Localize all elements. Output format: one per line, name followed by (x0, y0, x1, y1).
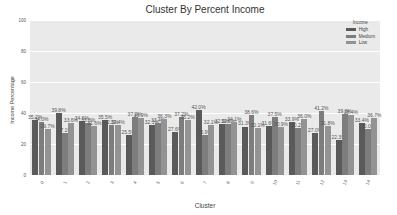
bar-value-label: 31.6% (87, 120, 101, 126)
bar-value-label: 36.0% (297, 113, 311, 119)
bar-low (255, 128, 261, 175)
bar-medium (342, 114, 348, 175)
bar-medium (225, 124, 231, 175)
y-tick-label: 0 (10, 173, 26, 178)
x-tick-label: 11 (294, 177, 302, 188)
bar-low (91, 126, 97, 175)
y-tick-label: 20 (10, 142, 26, 147)
bar-low (161, 119, 167, 175)
x-tick-label: 12 (318, 177, 326, 188)
bar-value-label: 34.0% (34, 116, 48, 122)
x-tick-label: 7 (201, 177, 209, 188)
bar-medium (365, 129, 371, 176)
bar-high (172, 132, 178, 175)
bar-high (32, 120, 38, 175)
y-tick-label: 40 (10, 111, 26, 116)
bar-high (266, 126, 272, 175)
bar-medium (85, 123, 91, 175)
chart-title: Cluster By Percent Income (30, 4, 380, 15)
x-tick-label: 1 (61, 177, 69, 188)
bar-low (115, 125, 121, 175)
plot-area: 35.2%34.0%29.7%39.8%27.1%33.6%34.6%33.8%… (30, 20, 380, 175)
bar-low (371, 118, 377, 175)
bar-medium (109, 125, 115, 175)
legend-swatch (346, 35, 356, 38)
x-tick-label: 4 (131, 177, 139, 188)
bar-value-label: 36.7% (367, 112, 381, 118)
bar-high (149, 125, 155, 175)
bar-low (278, 127, 284, 175)
bar-low (325, 126, 331, 175)
bar-value-label: 36.9% (134, 112, 148, 118)
gridline (30, 82, 380, 83)
legend-label: Low (359, 40, 367, 45)
x-tick-label: 2 (84, 177, 92, 188)
bar-low (301, 119, 307, 175)
gridline (30, 20, 380, 21)
bar-low (185, 120, 191, 175)
bar-high (289, 122, 295, 175)
x-tick-label: 13 (341, 177, 349, 188)
legend-label: Medium (359, 34, 375, 39)
gridline (30, 175, 380, 176)
legend: Income HighMediumLow (346, 20, 375, 47)
bar-value-label: 38.4% (344, 109, 358, 115)
bar-high (102, 120, 108, 175)
bar-high (219, 124, 225, 175)
bar-value-label: 31.8% (321, 120, 335, 126)
y-tick-label: 100 (10, 18, 26, 23)
bar-medium (295, 128, 301, 175)
bar-high (312, 133, 318, 175)
x-tick-label: 0 (38, 177, 46, 188)
legend-title: Income (346, 20, 375, 25)
bar-high (359, 123, 365, 175)
bar-medium (179, 117, 185, 175)
bar-high (79, 121, 85, 175)
bar-medium (202, 135, 208, 175)
y-tick-label: 80 (10, 49, 26, 54)
bar-value-label: 35.2% (181, 114, 195, 120)
bar-high (56, 113, 62, 175)
bar-low (208, 125, 214, 175)
bar-value-label: 39.8% (51, 107, 65, 113)
bar-high (242, 127, 248, 176)
x-tick-label: 8 (224, 177, 232, 188)
gridline (30, 51, 380, 52)
bar-medium (132, 117, 138, 175)
bar-value-label: 37.5% (268, 111, 282, 117)
bar-medium (39, 122, 45, 175)
x-axis-label: Cluster (30, 202, 380, 209)
bar-value-label: 42.0% (191, 104, 205, 110)
bar-value-label: 29.7% (41, 123, 55, 129)
bar-medium (62, 133, 68, 175)
x-tick-label: 10 (271, 177, 279, 188)
x-tick-label: 9 (248, 177, 256, 188)
x-tick-label: 6 (178, 177, 186, 188)
legend-swatch (346, 41, 356, 44)
bar-medium (155, 123, 161, 175)
x-tick-label: 3 (108, 177, 116, 188)
bar-high (336, 140, 342, 175)
legend-item: Low (346, 40, 375, 45)
bar-value-label: 32.4% (111, 119, 125, 125)
bar-value-label: 41.2% (314, 105, 328, 111)
legend-label: High (359, 27, 368, 32)
bar-low (231, 122, 237, 175)
y-tick-label: 60 (10, 80, 26, 85)
legend-item: High (346, 27, 375, 32)
bar-low (68, 123, 74, 175)
bar-value-label: 38.6% (244, 109, 258, 115)
x-tick-label: 5 (154, 177, 162, 188)
bar-value-label: 36.3% (157, 113, 171, 119)
legend-item: Medium (346, 34, 375, 39)
bar-low (138, 118, 144, 175)
bar-high (196, 110, 202, 175)
bar-low (348, 115, 354, 175)
bar-high (126, 135, 132, 175)
legend-swatch (346, 28, 356, 31)
gridline (30, 113, 380, 114)
bar-low (45, 129, 51, 175)
x-tick-label: 14 (364, 177, 372, 188)
